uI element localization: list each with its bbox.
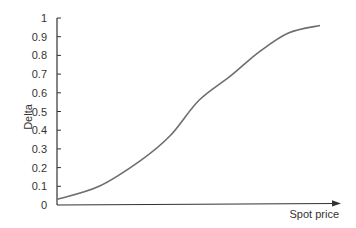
y-tick-label: 0.3 — [32, 143, 47, 155]
y-tick-label: 0.2 — [32, 162, 47, 174]
x-axis-label: Spot price — [289, 208, 339, 220]
delta-chart: 00.10.20.30.40.50.60.70.80.91 Spot price… — [0, 0, 356, 228]
y-tick-label: 0.1 — [32, 180, 47, 192]
y-tick-label: 0.7 — [32, 68, 47, 80]
y-axis-label: Delta — [22, 103, 34, 130]
delta-curve — [57, 25, 320, 199]
y-tick-label: 1 — [41, 12, 47, 24]
y-tick-label: 0.9 — [32, 31, 47, 43]
y-tick-label: 0.8 — [32, 49, 47, 61]
y-tick-label: 0 — [41, 199, 47, 211]
x-axis-line — [57, 204, 334, 206]
y-tick-label: 0.6 — [32, 87, 47, 99]
x-axis-arrowhead — [332, 200, 341, 206]
